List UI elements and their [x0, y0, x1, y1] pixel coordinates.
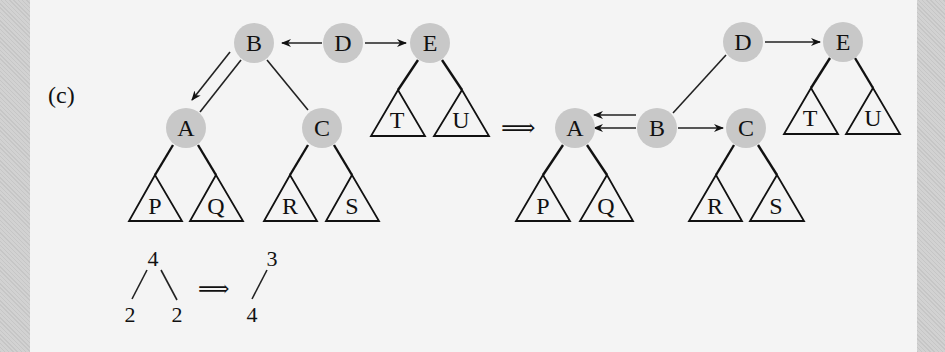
- rank-example: 4 2 2 ⟹ 3 4: [125, 246, 278, 327]
- subtree-s: S: [326, 175, 379, 221]
- subtree-p: P: [516, 175, 570, 221]
- svg-text:B: B: [246, 30, 262, 56]
- subtree-s: S: [750, 175, 804, 221]
- node-a: A: [555, 108, 595, 148]
- edge-a-q: [587, 145, 607, 175]
- rank-after-left-edge: [252, 270, 267, 299]
- svg-text:S: S: [769, 193, 782, 219]
- subtree-r: R: [264, 175, 317, 221]
- edge-a-p: [155, 145, 173, 175]
- subtree-u: U: [846, 88, 900, 134]
- svg-text:Q: Q: [597, 193, 614, 219]
- svg-text:D: D: [334, 30, 351, 56]
- after-tree: D E A B C P: [516, 22, 900, 221]
- subtree-t: T: [371, 90, 425, 136]
- svg-text:A: A: [177, 115, 195, 141]
- svg-text:A: A: [566, 115, 584, 141]
- node-d: D: [323, 23, 363, 63]
- svg-text:E: E: [423, 30, 438, 56]
- svg-text:R: R: [707, 193, 723, 219]
- node-b: B: [234, 23, 274, 63]
- tree-diagram: (c) B D: [0, 0, 945, 352]
- subtree-r: R: [689, 175, 742, 221]
- svg-text:U: U: [452, 107, 469, 133]
- rank-before-root: 4: [148, 246, 159, 271]
- subtree-t: T: [784, 88, 838, 134]
- node-c: C: [726, 108, 766, 148]
- edge-c-r: [716, 145, 734, 175]
- subtree-p: P: [129, 175, 182, 221]
- rank-transform-arrow: ⟹: [198, 276, 230, 301]
- arrow-b-to-a: [192, 52, 230, 100]
- subtree-u: U: [434, 90, 489, 136]
- rank-before-left-edge: [132, 270, 147, 299]
- svg-text:E: E: [836, 29, 851, 55]
- edge-c-s: [758, 145, 777, 175]
- node-e: E: [823, 22, 863, 62]
- figure-stage: (c) B D: [0, 0, 945, 352]
- svg-text:T: T: [803, 105, 818, 131]
- edge-c-r: [290, 145, 308, 175]
- edge-e-u: [855, 58, 873, 88]
- transform-arrow: ⟹: [501, 115, 535, 141]
- svg-text:P: P: [148, 193, 161, 219]
- svg-text:T: T: [390, 107, 405, 133]
- subtree-q: Q: [190, 175, 243, 221]
- edge-a-p: [543, 145, 563, 175]
- rank-before-right: 2: [172, 302, 183, 327]
- svg-text:R: R: [282, 193, 298, 219]
- node-d: D: [723, 22, 763, 62]
- rank-after-root: 3: [267, 246, 278, 271]
- panel-label: (c): [48, 82, 75, 108]
- edge-b-c: [267, 60, 308, 110]
- node-c: C: [302, 108, 342, 148]
- edge-e-t: [811, 58, 830, 88]
- edge-d-b: [673, 55, 726, 113]
- node-a: A: [166, 108, 206, 148]
- rank-before-left: 2: [125, 302, 136, 327]
- svg-text:B: B: [649, 115, 665, 141]
- subtree-q: Q: [580, 175, 633, 221]
- svg-text:U: U: [864, 105, 881, 131]
- edge-b-a: [200, 60, 241, 112]
- edge-a-q: [198, 145, 216, 175]
- svg-text:Q: Q: [207, 193, 224, 219]
- before-tree: B D E A C P: [129, 23, 489, 221]
- rank-after-left: 4: [247, 302, 258, 327]
- rank-before-right-edge: [161, 270, 177, 300]
- node-e: E: [410, 23, 450, 63]
- edge-e-t: [398, 60, 418, 90]
- edge-e-u: [442, 60, 462, 90]
- svg-text:P: P: [536, 193, 549, 219]
- svg-text:S: S: [345, 193, 358, 219]
- svg-text:C: C: [314, 115, 330, 141]
- node-b: B: [637, 108, 677, 148]
- svg-text:D: D: [734, 29, 751, 55]
- edge-c-s: [334, 145, 352, 175]
- svg-text:C: C: [738, 115, 754, 141]
